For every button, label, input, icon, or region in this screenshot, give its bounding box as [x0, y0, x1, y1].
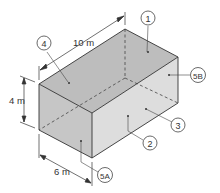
dimension-length-label: 10 m: [73, 37, 94, 48]
room-diagram: 10 m 4 m 6 m 1 4 5B: [0, 0, 220, 193]
svg-text:3: 3: [175, 121, 180, 131]
svg-text:5A: 5A: [100, 172, 110, 181]
svg-text:4: 4: [41, 39, 46, 49]
dimension-height-label: 4 m: [9, 95, 25, 106]
svg-text:1: 1: [145, 14, 150, 24]
svg-text:2: 2: [147, 139, 152, 149]
dimension-width-label: 6 m: [54, 166, 70, 177]
svg-text:5B: 5B: [193, 72, 203, 81]
